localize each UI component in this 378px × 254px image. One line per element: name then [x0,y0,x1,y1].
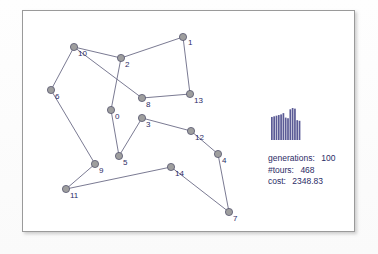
tour-node-label: 6 [55,92,60,101]
tour-node-label: 12 [195,133,204,142]
tour-node[interactable] [47,86,54,93]
tour-node-layer [47,33,232,215]
chart-bar [296,120,298,140]
chart-bar [283,113,285,140]
stat-cost-value: 2348.83 [292,176,323,186]
tour-node[interactable] [70,43,77,50]
tour-node[interactable] [225,208,232,215]
stat-tours-value: 468 [300,165,314,175]
tour-node[interactable] [214,150,221,157]
tour-node[interactable] [138,114,145,121]
tour-node-label: 8 [146,100,151,109]
tour-edge [121,37,183,58]
app-root: 01234567891011121314 generations: 100 #t… [0,0,378,254]
tour-node-label: 14 [175,169,184,178]
convergence-bar-chart-svg [271,108,301,140]
tour-node-label: 5 [123,158,128,167]
tour-node[interactable] [107,106,114,113]
chart-bar [271,117,273,140]
chart-bar [285,118,287,140]
tour-label-layer: 01234567891011121314 [55,38,238,223]
tour-node[interactable] [62,185,69,192]
tour-node-label: 13 [194,96,203,105]
tour-node-label: 7 [233,214,238,223]
tour-edge [51,90,95,164]
tour-node-label: 10 [78,49,87,58]
tsp-tour-graph: 01234567891011121314 [23,11,355,232]
tour-node-label: 4 [222,156,227,165]
tour-node-label: 0 [115,112,120,121]
stat-cost: cost: 2348.83 [268,176,335,188]
tour-node[interactable] [186,90,193,97]
chart-bar [273,116,275,140]
tour-edge [51,47,74,90]
chart-bar [280,114,282,140]
tour-edge [66,164,95,189]
stat-tours: #tours: 468 [268,165,335,177]
tour-node-label: 11 [70,191,79,200]
chart-bar [292,108,294,140]
tour-node[interactable] [117,54,124,61]
stat-generations: generations: 100 [268,153,335,165]
tour-node[interactable] [115,152,122,159]
tour-edge [66,167,171,189]
tour-node-label: 3 [146,120,151,129]
tour-edge [119,118,142,156]
tour-node[interactable] [91,160,98,167]
tour-edge [111,58,121,110]
tour-node[interactable] [138,94,145,101]
chart-bar [287,118,289,140]
convergence-bar-chart [271,108,301,140]
chart-bar [289,109,291,140]
tour-panel: 01234567891011121314 generations: 100 #t… [22,10,355,232]
tour-node[interactable] [179,33,186,40]
chart-bar [278,115,280,140]
tour-node-label: 9 [99,166,104,175]
stat-generations-label: generations: [268,153,315,163]
stat-tours-label: #tours: [268,165,294,175]
statistics-block: generations: 100 #tours: 468 cost: 2348.… [268,153,335,188]
tour-node-label: 1 [188,38,193,47]
tour-node[interactable] [167,163,174,170]
stat-cost-label: cost: [268,176,286,186]
tour-edge [142,94,190,98]
tour-node[interactable] [187,127,194,134]
chart-bar [294,109,296,140]
tour-node-label: 2 [125,60,130,69]
stat-generations-value: 100 [321,153,335,163]
chart-bar [299,121,301,140]
chart-bar [276,116,278,140]
tour-edge-layer [51,37,229,212]
